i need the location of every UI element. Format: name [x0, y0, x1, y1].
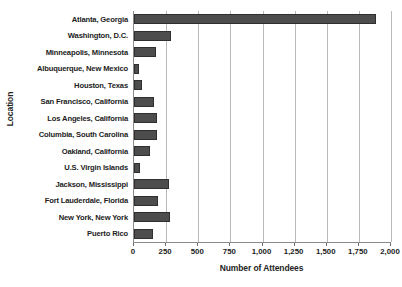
category-label: Los Angeles, California: [8, 114, 128, 123]
bar: [134, 113, 157, 123]
x-tick-label: 1,500: [316, 247, 336, 256]
bar: [134, 163, 140, 173]
category-label: U.S. Virgin Islands: [8, 163, 128, 172]
bar: [134, 146, 150, 156]
bar: [134, 47, 156, 57]
bar: [134, 80, 142, 90]
bar: [134, 229, 153, 239]
x-tick-label: 2,000: [380, 247, 400, 256]
bar: [134, 31, 171, 41]
category-label: Columbia, South Carolina: [8, 130, 128, 139]
category-label: New York, New York: [8, 213, 128, 222]
bar: [134, 179, 169, 189]
x-tick-label: 1,750: [348, 247, 368, 256]
category-label: Jackson, Mississippi: [8, 180, 128, 189]
x-tick-label: 750: [223, 247, 236, 256]
gridline-2000: [391, 11, 392, 242]
category-label: Atlanta, Georgia: [8, 15, 128, 24]
bar: [134, 64, 139, 74]
category-label-list: Atlanta, GeorgiaWashington, D.C.Minneapo…: [8, 11, 128, 241]
gridline-1750: [359, 11, 360, 242]
category-label: Washington, D.C.: [8, 31, 128, 40]
category-label: San Francisco, California: [8, 97, 128, 106]
bar: [134, 130, 157, 140]
bar: [134, 14, 376, 24]
x-axis-title: Number of Attendees: [133, 263, 390, 273]
category-label: Puerto Rico: [8, 229, 128, 238]
x-tick-label: 250: [159, 247, 172, 256]
x-tick-mark: [165, 243, 166, 246]
bar: [134, 212, 170, 222]
category-label: Fort Lauderdale, Florida: [8, 196, 128, 205]
x-tick-label: 0: [131, 247, 135, 256]
x-tick-label: 500: [191, 247, 204, 256]
category-label: Albuquerque, New Mexico: [8, 64, 128, 73]
category-label: Oakland, California: [8, 147, 128, 156]
gridline-500: [198, 11, 199, 242]
gridline-1250: [295, 11, 296, 242]
x-tick-label: 1,000: [252, 247, 272, 256]
plot-area: [133, 11, 391, 243]
gridline-750: [230, 11, 231, 242]
x-tick-mark: [197, 243, 198, 246]
category-label: Houston, Texas: [8, 81, 128, 90]
gridline-1000: [263, 11, 264, 242]
bar: [134, 196, 158, 206]
x-axis-ticks: 02505007501,0001,2501,5001,7502,000: [133, 243, 390, 257]
x-tick-mark: [358, 243, 359, 246]
category-label: Minneapolis, Minnesota: [8, 48, 128, 57]
x-tick-mark: [229, 243, 230, 246]
gridline-250: [166, 11, 167, 242]
x-tick-mark: [133, 243, 134, 246]
x-tick-label: 1,250: [284, 247, 304, 256]
gridline-1500: [327, 11, 328, 242]
bar: [134, 97, 154, 107]
x-tick-mark: [390, 243, 391, 246]
x-tick-mark: [262, 243, 263, 246]
x-tick-mark: [326, 243, 327, 246]
attendees-bar-chart: Location Atlanta, GeorgiaWashington, D.C…: [0, 0, 402, 287]
x-tick-mark: [294, 243, 295, 246]
